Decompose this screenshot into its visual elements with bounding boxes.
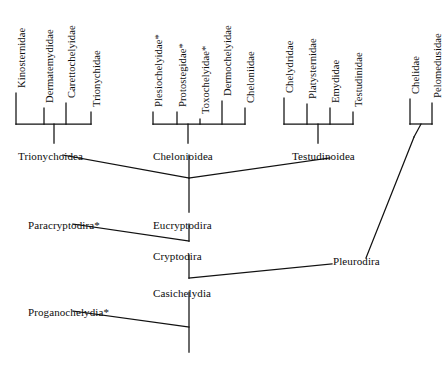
clade-label-chelonioidea: Chelonioidea bbox=[153, 150, 213, 162]
clade-label-pleurodira: Pleurodira bbox=[333, 255, 380, 267]
clade-label-trionychoidea: Trionychoidea bbox=[18, 150, 83, 162]
terminal-label-carettochelyidae: Carettochelyidae bbox=[66, 25, 77, 98]
terminal-label-pelomedusidae: Pelomedusidae bbox=[432, 33, 443, 98]
terminal-label-plesiochelyidae: Plesiochelyidae* bbox=[153, 34, 164, 107]
clade-label-proganochelydia: Proganochelydia* bbox=[28, 306, 109, 318]
cladogram-figure: Kinosternidae Dermatemydidae Carettochel… bbox=[0, 0, 445, 371]
clade-label-paracryptodira: Paracryptodira* bbox=[28, 219, 100, 231]
terminal-label-emydidae: Emydidae bbox=[330, 60, 341, 103]
clade-label-cryptodira: Cryptodira bbox=[153, 250, 202, 262]
terminal-label-dermochelyidae: Dermochelyidae bbox=[222, 25, 233, 96]
clade-label-eucryptodira: Eucryptodira bbox=[153, 219, 212, 231]
terminal-label-toxochelyidae: Toxochelyidae* bbox=[200, 46, 211, 114]
terminal-label-dermatemydidae: Dermatemydidae bbox=[44, 29, 55, 103]
branch-pleurodira-to-casichelydia bbox=[189, 264, 332, 278]
terminal-label-platysternidae: Platysternidae bbox=[307, 38, 318, 99]
bracket-chelonioidea bbox=[153, 101, 245, 143]
terminal-label-chelydridae: Chelydridae bbox=[284, 41, 295, 93]
terminal-label-protostegidae: Protostegidae* bbox=[177, 43, 188, 107]
clade-label-testudinoidea: Testudinoidea bbox=[292, 150, 355, 162]
branch-pleurodira-to-bracket bbox=[366, 137, 414, 258]
terminal-label-testudinidae: Testudinidae bbox=[353, 52, 364, 107]
clade-label-casichelydia: Casichelydia bbox=[153, 287, 211, 299]
terminal-label-cheloniidae: Cheloniidae bbox=[245, 51, 256, 103]
bracket-testudinoidea bbox=[284, 98, 353, 143]
bracket-pleurodira bbox=[410, 99, 432, 137]
terminal-label-kinosternidae: Kinosternidae bbox=[16, 28, 27, 88]
terminal-label-trionychidae: Trionychidae bbox=[91, 50, 102, 107]
terminal-label-chelidae: Chelidae bbox=[410, 56, 421, 94]
